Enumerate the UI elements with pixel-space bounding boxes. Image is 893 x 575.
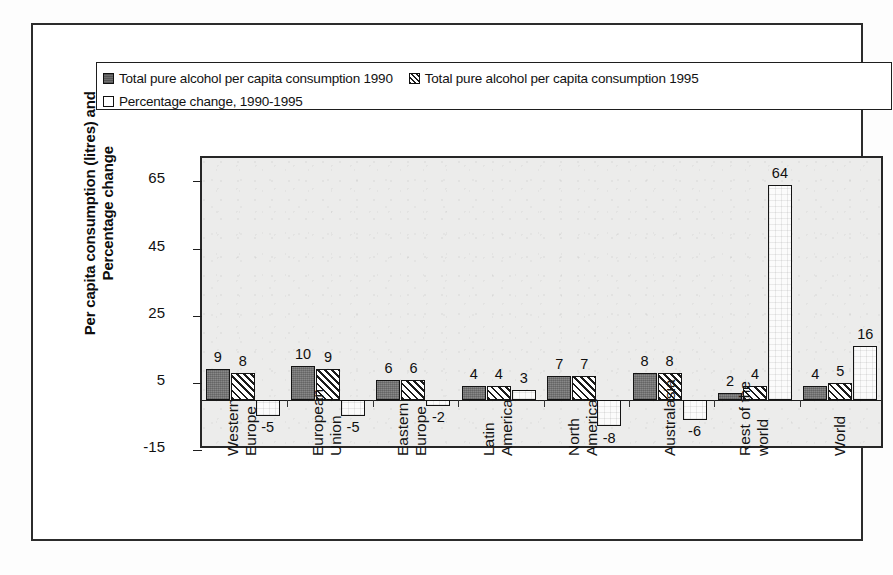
- bar-pct-change[interactable]: [597, 400, 621, 427]
- x-axis-tick: [373, 400, 374, 407]
- category-label-line: North: [565, 399, 583, 456]
- bar-1990[interactable]: [462, 386, 486, 399]
- x-axis-tick: [800, 400, 801, 407]
- y-axis-tick: [193, 181, 202, 182]
- y-axis-tick: [193, 450, 202, 451]
- bar-1995[interactable]: [231, 373, 255, 400]
- bar-value-label: 8: [652, 354, 688, 369]
- bar-1995[interactable]: [572, 376, 596, 399]
- bar-1990[interactable]: [803, 386, 827, 399]
- diagonal-hatch-square-icon: [409, 73, 420, 84]
- bar-1995[interactable]: [828, 383, 852, 400]
- bar-value-label: 8: [225, 354, 261, 369]
- category-label-line: European: [309, 389, 327, 456]
- y-axis-tick-label: 5: [105, 371, 165, 388]
- y-axis-tick: [193, 383, 202, 384]
- legend-label-1990: Total pure alcohol per capita consumptio…: [119, 71, 393, 86]
- x-axis-tick: [458, 400, 459, 407]
- x-axis-category-label: EuropeanUnion: [309, 389, 345, 456]
- bar-1990[interactable]: [206, 369, 230, 399]
- bar-1995[interactable]: [487, 386, 511, 399]
- bar-pct-change[interactable]: [512, 390, 536, 400]
- bar-value-label: 16: [847, 327, 883, 342]
- bar-pct-change[interactable]: [683, 400, 707, 420]
- bar-pct-change[interactable]: [426, 400, 450, 407]
- x-axis-category-label: NorthAmerica: [565, 399, 601, 456]
- bar-value-label: 7: [566, 357, 602, 372]
- category-label-line: Europe: [242, 399, 260, 456]
- bar-value-label: -6: [677, 424, 713, 439]
- bar-value-label: 9: [310, 350, 346, 365]
- legend-label-pct-change: Percentage change, 1990-1995: [119, 94, 303, 109]
- x-axis-tick: [714, 400, 715, 407]
- y-axis-title-line-1: Per capita consumption (litres) and: [81, 63, 99, 363]
- bar-group: 4516: [800, 158, 885, 446]
- legend-label-1995: Total pure alcohol per capita consumptio…: [425, 71, 699, 86]
- chart-legend: Total pure alcohol per capita consumptio…: [96, 62, 892, 110]
- y-axis-tick-label: 45: [105, 237, 165, 254]
- category-label-line: America: [583, 399, 601, 456]
- bar-pct-change[interactable]: [341, 400, 365, 417]
- y-axis-tick-label: 25: [105, 304, 165, 321]
- category-label-line: Latin: [480, 399, 498, 456]
- bar-value-label: 6: [395, 361, 431, 376]
- legend-entry-1995[interactable]: Total pure alcohol per capita consumptio…: [409, 66, 699, 90]
- category-label-line: world: [754, 381, 772, 456]
- bar-1995[interactable]: [401, 380, 425, 400]
- y-axis-tick-label: 65: [105, 169, 165, 186]
- bar-value-label: 3: [506, 371, 542, 386]
- legend-entry-1990[interactable]: Total pure alcohol per capita consumptio…: [103, 66, 393, 90]
- y-axis-tick-label: -15: [105, 438, 165, 455]
- bar-pct-change[interactable]: [853, 346, 877, 400]
- bar-1990[interactable]: [547, 376, 571, 399]
- y-axis-tick: [193, 249, 202, 250]
- x-axis-tick: [629, 400, 630, 407]
- category-label-line: World: [831, 416, 849, 456]
- category-label-line: Western: [224, 399, 242, 456]
- x-axis-category-label: EasternEurope: [394, 403, 430, 456]
- legend-row-1: Total pure alcohol per capita consumptio…: [103, 66, 887, 89]
- bar-1990[interactable]: [633, 373, 657, 400]
- x-axis-category-label: Australasia: [661, 379, 679, 456]
- legend-row-2: Percentage change, 1990-1995: [103, 89, 887, 112]
- x-axis-category-label: Rest of theworld: [736, 381, 772, 456]
- x-axis-tick: [544, 400, 545, 407]
- bar-pct-change[interactable]: [768, 185, 792, 400]
- x-axis-tick: [287, 400, 288, 407]
- category-label-line: Eastern: [394, 403, 412, 456]
- category-label-line: America: [498, 399, 516, 456]
- category-label-line: Europe: [412, 403, 430, 456]
- x-axis-category-label: World: [831, 416, 849, 456]
- x-axis-category-label: LatinAmerica: [480, 399, 516, 456]
- category-label-line: Australasia: [661, 379, 679, 456]
- bar-1990[interactable]: [376, 380, 400, 400]
- category-label-line: Rest of the: [736, 381, 754, 456]
- x-axis-category-label: WesternEurope: [224, 399, 260, 456]
- plot-area: 98-5109-566-244377-888-624644516: [200, 156, 883, 448]
- scanned-page: Total pure alcohol per capita consumptio…: [0, 0, 893, 575]
- category-label-line: Union: [327, 389, 345, 456]
- y-axis-tick: [193, 316, 202, 317]
- legend-entry-pct-change[interactable]: Percentage change, 1990-1995: [103, 89, 303, 113]
- bar-value-label: 64: [762, 166, 798, 181]
- figure-frame: Total pure alcohol per capita consumptio…: [31, 23, 863, 541]
